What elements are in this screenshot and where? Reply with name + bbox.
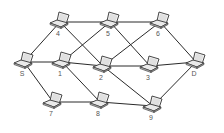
node-label: 3 (146, 74, 150, 81)
node-label: 6 (156, 30, 160, 37)
node-label: 4 (56, 30, 60, 37)
edge-6-D (160, 22, 196, 62)
network-diagram: 456S123D789 (0, 0, 224, 133)
node-label: 8 (96, 110, 100, 117)
node-label: 7 (49, 110, 53, 117)
node-label: S (20, 70, 25, 77)
edge-2-9 (103, 66, 153, 106)
laptop-icon (100, 12, 119, 29)
laptop-icon (50, 12, 69, 29)
laptop-icon (14, 52, 33, 69)
node-label: D (191, 70, 196, 77)
edge-5-3 (110, 22, 150, 66)
network-graph-canvas (0, 0, 224, 133)
node-label: 2 (99, 74, 103, 81)
node-label: 1 (58, 70, 62, 77)
laptop-icon (150, 12, 169, 29)
laptop-icon (143, 96, 162, 113)
edge-S-7 (24, 62, 53, 102)
laptop-icon (52, 52, 71, 69)
laptop-icon (43, 92, 62, 109)
node-label: 9 (149, 114, 153, 121)
node-label: 5 (106, 30, 110, 37)
